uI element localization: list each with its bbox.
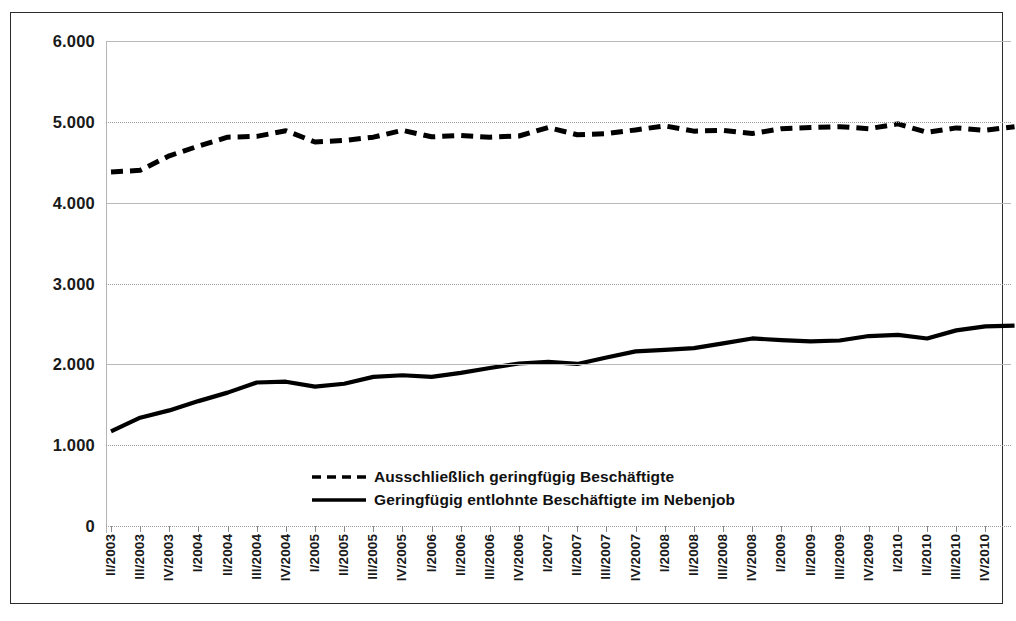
x-axis-label: IV/2010 bbox=[977, 534, 992, 581]
x-axis-label: I/2004 bbox=[190, 534, 205, 572]
x-axis-label: II/2005 bbox=[336, 534, 351, 576]
x-axis-tick bbox=[140, 526, 141, 532]
x-axis-label: I/2006 bbox=[424, 534, 439, 572]
x-axis-label: III/2004 bbox=[249, 534, 264, 580]
x-axis-label: II/2009 bbox=[803, 534, 818, 576]
x-axis-tick bbox=[461, 526, 462, 532]
y-axis-label: 2.000 bbox=[53, 355, 95, 374]
x-axis-tick bbox=[402, 526, 403, 532]
x-axis-tick bbox=[927, 526, 928, 532]
x-axis-tick bbox=[286, 526, 287, 532]
x-axis-tick bbox=[519, 526, 520, 532]
x-axis-tick bbox=[548, 526, 549, 532]
chart-legend: Ausschließlich geringfügig Beschäftigte … bbox=[311, 465, 735, 511]
x-axis-label: I/2007 bbox=[540, 534, 555, 572]
legend-label-secondary-job: Geringfügig entlohnte Beschäftigte im Ne… bbox=[374, 491, 735, 509]
y-axis-label: 0 bbox=[86, 517, 95, 536]
x-axis-tick bbox=[315, 526, 316, 532]
x-axis-tick bbox=[606, 526, 607, 532]
x-axis-label: IV/2007 bbox=[628, 534, 643, 581]
x-axis-tick bbox=[490, 526, 491, 532]
gridline-5000 bbox=[106, 122, 1011, 124]
chart-frame: 01.0002.0003.0004.0005.0006.000 II/2003I… bbox=[10, 12, 1003, 604]
x-axis-tick bbox=[840, 526, 841, 532]
x-axis-label: II/2010 bbox=[919, 534, 934, 576]
x-axis-tick bbox=[811, 526, 812, 532]
x-axis-label: II/2004 bbox=[220, 534, 235, 576]
legend-item: Geringfügig entlohnte Beschäftigte im Ne… bbox=[311, 488, 735, 511]
gridline-3000 bbox=[106, 284, 1011, 286]
x-axis-label: IV/2005 bbox=[394, 534, 409, 581]
x-axis-label: I/2008 bbox=[657, 534, 672, 572]
x-axis-tick bbox=[723, 526, 724, 532]
solid-line-icon bbox=[311, 493, 367, 507]
x-axis-label: II/2006 bbox=[453, 534, 468, 576]
x-axis-tick bbox=[344, 526, 345, 532]
x-axis-label: II/2003 bbox=[103, 534, 118, 576]
series-line bbox=[111, 124, 1015, 172]
x-axis-tick bbox=[665, 526, 666, 532]
x-axis-label: IV/2006 bbox=[511, 534, 526, 581]
x-axis-tick bbox=[198, 526, 199, 532]
x-axis-label: III/2008 bbox=[715, 534, 730, 580]
x-axis-tick bbox=[373, 526, 374, 532]
x-axis-tick bbox=[257, 526, 258, 532]
y-axis-label: 3.000 bbox=[53, 274, 95, 293]
x-axis-tick bbox=[781, 526, 782, 532]
y-axis-label: 4.000 bbox=[53, 193, 95, 212]
x-axis-tick bbox=[577, 526, 578, 532]
series-line bbox=[111, 326, 1015, 432]
legend-label-exclusive: Ausschließlich geringfügig Beschäftigte bbox=[374, 468, 674, 486]
x-axis-tick bbox=[432, 526, 433, 532]
x-axis-label: II/2007 bbox=[569, 534, 584, 576]
x-axis-tick bbox=[956, 526, 957, 532]
legend-item: Ausschließlich geringfügig Beschäftigte bbox=[311, 465, 735, 488]
x-axis-tick bbox=[169, 526, 170, 532]
gridline-4000 bbox=[106, 203, 1011, 205]
x-axis-tick bbox=[111, 526, 112, 532]
x-axis-label: I/2005 bbox=[307, 534, 322, 572]
x-axis-label: III/2006 bbox=[482, 534, 497, 580]
x-axis-label: IV/2004 bbox=[278, 534, 293, 581]
gridline-1000 bbox=[106, 445, 1011, 447]
x-axis-tick bbox=[636, 526, 637, 532]
x-axis-tick bbox=[228, 526, 229, 532]
x-axis-tick bbox=[985, 526, 986, 532]
chart-page: 01.0002.0003.0004.0005.0006.000 II/2003I… bbox=[0, 0, 1016, 621]
x-axis-label: I/2009 bbox=[773, 534, 788, 572]
x-axis-label: III/2007 bbox=[598, 534, 613, 580]
x-axis-label: III/2010 bbox=[948, 534, 963, 580]
gridline-6000 bbox=[106, 41, 1011, 43]
x-axis-tick bbox=[869, 526, 870, 532]
dashed-line-icon bbox=[311, 470, 367, 484]
x-axis-label: II/2008 bbox=[686, 534, 701, 576]
x-axis-label: III/2009 bbox=[832, 534, 847, 580]
x-axis-label: III/2005 bbox=[365, 534, 380, 580]
x-axis-label: IV/2009 bbox=[861, 534, 876, 581]
x-axis-label: IV/2008 bbox=[744, 534, 759, 581]
x-axis-labels: II/2003III/2003IV/2003I/2004II/2004III/2… bbox=[106, 534, 1011, 618]
y-axis-label: 5.000 bbox=[53, 112, 95, 131]
y-axis-label: 1.000 bbox=[53, 436, 95, 455]
x-axis-ticks bbox=[106, 526, 1011, 533]
x-axis-label: I/2010 bbox=[890, 534, 905, 572]
y-axis-labels: 01.0002.0003.0004.0005.0006.000 bbox=[11, 13, 95, 621]
y-axis-label: 6.000 bbox=[53, 32, 95, 51]
plot-area bbox=[106, 41, 1011, 526]
x-axis-tick bbox=[694, 526, 695, 532]
x-axis-tick bbox=[898, 526, 899, 532]
gridline-2000 bbox=[106, 364, 1011, 366]
x-axis-label: III/2003 bbox=[132, 534, 147, 580]
x-axis-label: IV/2003 bbox=[161, 534, 176, 581]
x-axis-tick bbox=[752, 526, 753, 532]
